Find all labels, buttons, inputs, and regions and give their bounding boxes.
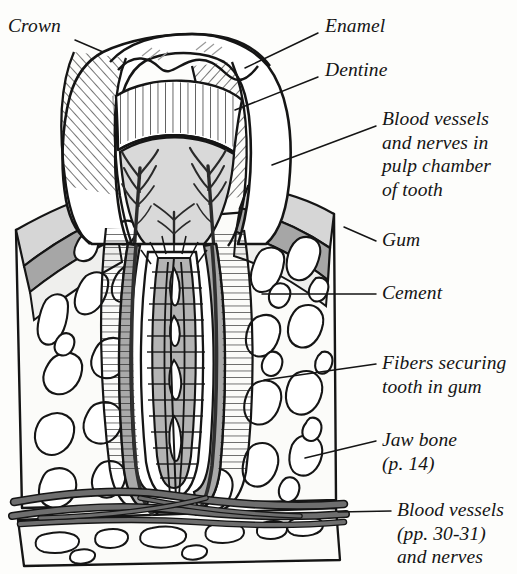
label-line: and nerves in <box>382 131 491 155</box>
label-enamel: Enamel <box>325 14 385 38</box>
label-line: Blood vessels <box>382 107 491 131</box>
label-line: Blood vessels <box>397 498 504 522</box>
label-line: (p. 14) <box>382 452 457 476</box>
label-line: Gum <box>382 228 420 252</box>
label-line: Crown <box>8 14 61 38</box>
label-line: Cement <box>382 281 442 305</box>
leader-line-gum <box>344 227 376 241</box>
label-line: tooth in gum <box>382 375 506 399</box>
label-cement: Cement <box>382 281 442 305</box>
label-gum: Gum <box>382 228 420 252</box>
label-line: Dentine <box>325 58 387 82</box>
label-pulp-chamber: Blood vesselsand nerves inpulp chamberof… <box>382 107 491 201</box>
label-line: of tooth <box>382 178 491 202</box>
leader-line-crown <box>75 40 103 52</box>
label-line: and nerves <box>397 545 504 569</box>
label-line: Enamel <box>325 14 385 38</box>
label-line: pulp chamber <box>382 154 491 178</box>
label-blood-vessels-bottom: Blood vessels(pp. 30-31)and nerves <box>397 498 504 569</box>
label-jaw-bone: Jaw bone(p. 14) <box>382 428 457 475</box>
label-crown: Crown <box>8 14 61 38</box>
label-line: (pp. 30-31) <box>397 522 504 546</box>
label-fibers: Fibers securingtooth in gum <box>382 351 506 398</box>
tooth-root <box>96 220 260 512</box>
leader-line-blood-vessels-bottom <box>338 511 391 512</box>
label-dentine: Dentine <box>325 58 387 82</box>
label-line: Fibers securing <box>382 351 506 375</box>
tooth-anatomy-figure: CrownEnamelDentineBlood vesselsand nerve… <box>0 0 517 574</box>
label-line: Jaw bone <box>382 428 457 452</box>
